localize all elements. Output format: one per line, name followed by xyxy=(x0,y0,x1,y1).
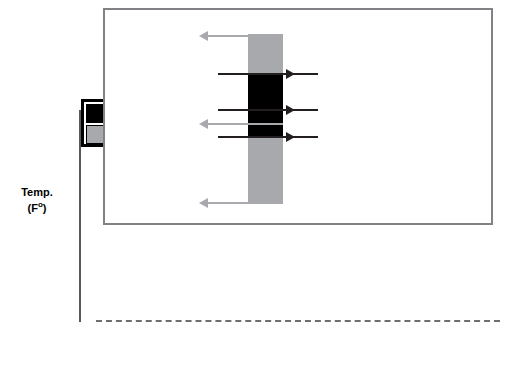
temperature-chart: Temp.(Fo) xyxy=(0,0,507,366)
actual-high-leader xyxy=(218,73,318,75)
record-high-leader xyxy=(208,35,283,37)
record-high-arrow-icon xyxy=(199,31,208,41)
actual-high-arrow-icon xyxy=(286,69,295,79)
baseline-gridline xyxy=(96,320,500,322)
actual-mean-arrow-icon xyxy=(286,105,295,115)
record-low-arrow-icon xyxy=(199,198,208,208)
actual-low-arrow-icon xyxy=(286,132,295,142)
inset-panel xyxy=(103,8,493,225)
y-axis-title: Temp.(Fo) xyxy=(6,186,68,215)
normal-mean-leader xyxy=(208,123,283,125)
actual-mean-leader xyxy=(218,109,318,111)
record-low-leader xyxy=(208,202,283,204)
actual-low-leader xyxy=(218,136,318,138)
normal-mean-arrow-icon xyxy=(199,119,208,129)
inset-actual-range-column xyxy=(248,73,283,136)
